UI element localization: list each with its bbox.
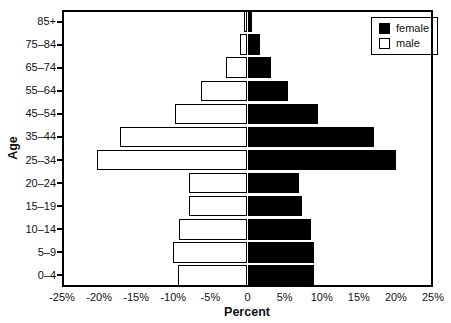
y-axis-label: 10–14 <box>2 224 56 235</box>
bar-male-65–74 <box>226 57 248 77</box>
legend: female male <box>371 17 438 55</box>
legend-entry-female: female <box>379 23 429 34</box>
y-axis-tick <box>57 159 62 161</box>
x-axis-label: 10% <box>311 292 333 303</box>
bar-male-20–24 <box>189 173 248 193</box>
bar-female-5–9 <box>248 242 315 262</box>
bar-male-0–4 <box>178 265 248 285</box>
plot-area: female male <box>62 10 433 287</box>
bar-male-15–19 <box>189 196 248 216</box>
bar-female-45–54 <box>248 104 318 124</box>
y-axis-tick <box>57 90 62 92</box>
bar-female-15–19 <box>248 196 302 216</box>
y-axis-label: 85+ <box>2 16 56 27</box>
y-axis-label: 45–54 <box>2 108 56 119</box>
y-axis-tick <box>57 67 62 69</box>
bar-female-0–4 <box>248 265 315 285</box>
legend-entry-male: male <box>379 38 429 49</box>
bar-female-85+ <box>248 11 252 31</box>
y-axis-label: 65–74 <box>2 62 56 73</box>
y-axis-tick <box>57 21 62 23</box>
bar-female-65–74 <box>248 57 271 77</box>
y-axis-label: 20–24 <box>2 178 56 189</box>
x-axis-label: 0 <box>244 292 250 303</box>
x-axis-label: 20% <box>385 292 407 303</box>
female-swatch-icon <box>379 23 390 34</box>
x-axis-label: -20% <box>86 292 112 303</box>
population-pyramid-figure: Age female male 85+75–8465–7455–6445–543… <box>0 0 451 323</box>
y-axis-label: 0–4 <box>2 270 56 281</box>
y-axis-label: 25–34 <box>2 155 56 166</box>
bar-female-10–14 <box>248 219 311 239</box>
y-axis-label: 35–44 <box>2 131 56 142</box>
bar-female-20–24 <box>248 173 300 193</box>
y-axis-tick <box>57 274 62 276</box>
x-axis-label: 15% <box>348 292 370 303</box>
y-axis-tick <box>57 182 62 184</box>
y-axis-tick <box>57 251 62 253</box>
x-axis-title: Percent <box>224 305 270 319</box>
bar-female-25–34 <box>248 150 396 170</box>
y-axis-label: 5–9 <box>2 247 56 258</box>
bar-male-45–54 <box>175 104 248 124</box>
y-axis-tick <box>57 136 62 138</box>
bar-male-5–9 <box>173 242 247 262</box>
bar-male-35–44 <box>120 127 248 147</box>
y-axis-label: 15–19 <box>2 201 56 212</box>
x-axis-label: -15% <box>123 292 149 303</box>
male-swatch-icon <box>379 38 390 49</box>
x-axis-label: 25% <box>422 292 444 303</box>
y-axis-tick <box>57 44 62 46</box>
y-axis-label: 75–84 <box>2 39 56 50</box>
bar-male-10–14 <box>179 219 247 239</box>
x-axis-label: 5% <box>277 292 293 303</box>
x-axis-label: -10% <box>160 292 186 303</box>
bar-female-75–84 <box>248 34 261 54</box>
legend-label-male: male <box>396 38 420 49</box>
bar-female-35–44 <box>248 127 374 147</box>
legend-label-female: female <box>396 23 429 34</box>
y-axis-tick <box>57 205 62 207</box>
x-axis-label: -5% <box>201 292 221 303</box>
y-axis-tick <box>57 113 62 115</box>
bar-male-55–64 <box>201 81 247 101</box>
y-axis-tick <box>57 228 62 230</box>
x-axis-label: -25% <box>49 292 75 303</box>
bar-male-25–34 <box>97 150 248 170</box>
y-axis-label: 55–64 <box>2 85 56 96</box>
bar-female-55–64 <box>248 81 289 101</box>
bar-male-75–84 <box>240 34 247 54</box>
